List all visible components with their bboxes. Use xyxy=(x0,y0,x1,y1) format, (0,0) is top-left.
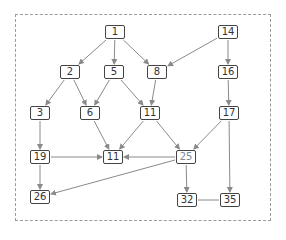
node-19: 19 xyxy=(30,150,50,164)
edge-1-to-2 xyxy=(79,40,106,64)
edge-11-to-11 xyxy=(120,121,144,149)
edge-17-to-35 xyxy=(229,121,230,192)
node-32: 32 xyxy=(177,193,197,207)
node-35: 35 xyxy=(220,193,240,207)
edge-11-to-25 xyxy=(157,121,180,149)
edge-2-to-6 xyxy=(74,80,86,105)
node-16: 16 xyxy=(218,65,238,79)
node-26: 26 xyxy=(30,190,50,204)
node-2: 2 xyxy=(60,65,80,79)
node-8: 8 xyxy=(147,65,167,79)
edge-8-to-11 xyxy=(151,80,155,105)
node-3: 3 xyxy=(30,106,50,120)
edge-16-to-17 xyxy=(228,80,229,105)
node-5: 5 xyxy=(104,65,124,79)
node-11: 11 xyxy=(140,106,160,120)
edge-14-to-8 xyxy=(168,38,217,66)
edge-25-to-32 xyxy=(186,165,187,192)
edge-1-to-5 xyxy=(114,40,115,64)
node-11: 11 xyxy=(103,150,123,164)
node-6: 6 xyxy=(80,106,100,120)
edge-2-to-3 xyxy=(46,80,64,105)
edge-25-to-26 xyxy=(51,160,175,194)
edge-17-to-25 xyxy=(194,121,221,149)
edge-6-to-11 xyxy=(94,121,109,149)
node-14: 14 xyxy=(218,25,238,39)
node-1: 1 xyxy=(105,25,125,39)
edge-5-to-11 xyxy=(121,80,143,105)
node-17: 17 xyxy=(219,106,239,120)
node-25: 25 xyxy=(176,150,196,164)
edge-5-to-6 xyxy=(95,80,110,105)
edge-1-to-8 xyxy=(123,40,148,64)
